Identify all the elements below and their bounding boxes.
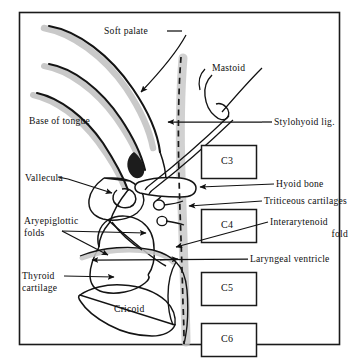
label-thyroid-cartilage-line1: Thyroid — [22, 270, 55, 282]
label-base-of-tongue: Base of tongue — [29, 115, 90, 127]
vertebra-label-c4: C4 — [221, 219, 233, 230]
label-aryepiglottic-folds-line1: Aryepiglottic — [24, 215, 78, 227]
label-thyroid-cartilage-line2: cartilage — [22, 282, 57, 294]
vertebra-label-c3: C3 — [221, 155, 233, 166]
label-interarytenoid-fold-line2: fold — [270, 228, 348, 240]
label-aryepiglottic-folds-line2: folds — [24, 227, 44, 239]
hyoid-bone — [135, 178, 196, 197]
label-mastoid: Mastoid — [212, 62, 245, 74]
anatomy-figure: Soft palate Mastoid Base of tongue Stylo… — [0, 0, 352, 358]
label-laryngeal-ventricle: Laryngeal ventricle — [250, 253, 330, 265]
label-hyoid-bone: Hyoid bone — [276, 178, 324, 190]
vertebra-label-c6: C6 — [221, 333, 233, 344]
vertebra-label-c5: C5 — [221, 282, 233, 293]
label-triticeous-cartilages: Triticeous cartilages — [264, 195, 347, 207]
label-stylohyoid-lig: Stylohyoid lig. — [274, 116, 335, 128]
label-interarytenoid-fold-line1: Interarytenoid — [270, 216, 328, 228]
label-cricoid: Cricoid — [114, 303, 145, 315]
label-vallecula: Vallecula — [25, 172, 63, 184]
label-soft-palate: Soft palate — [104, 25, 148, 37]
